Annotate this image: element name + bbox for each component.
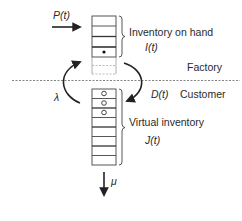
open-unit-circle bbox=[102, 101, 107, 106]
open-unit-circle bbox=[102, 91, 107, 96]
inventory-diagram: P(t) Inventory on hand I(t) Factory λ D(… bbox=[0, 0, 242, 221]
virtual-inventory-brace bbox=[119, 89, 125, 165]
open-unit-circle bbox=[102, 110, 107, 115]
arrival-arc-arrow bbox=[63, 62, 80, 103]
customer-region-label: Customer bbox=[180, 88, 226, 100]
production-rate-label: P(t) bbox=[53, 9, 70, 21]
demand-label: D(t) bbox=[151, 88, 169, 100]
factory-inventory-stack bbox=[92, 16, 116, 74]
demand-arc-arrow bbox=[124, 63, 142, 101]
customer-virtual-inventory-stack bbox=[92, 89, 116, 165]
filled-unit-dot bbox=[102, 50, 105, 53]
inventory-on-hand-symbol: I(t) bbox=[145, 41, 158, 53]
inventory-on-hand-brace bbox=[119, 16, 125, 57]
virtual-inventory-symbol: J(t) bbox=[144, 134, 160, 146]
service-rate-label: μ bbox=[110, 175, 117, 187]
inventory-on-hand-label: Inventory on hand bbox=[129, 26, 213, 38]
virtual-inventory-label: Virtual inventory bbox=[129, 116, 205, 128]
factory-region-label: Factory bbox=[187, 61, 223, 73]
arrival-rate-label: λ bbox=[53, 91, 59, 103]
